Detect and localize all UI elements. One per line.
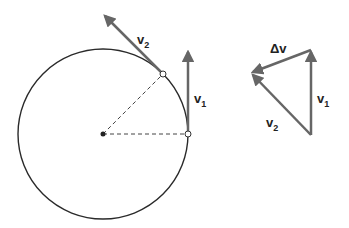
position-point-2	[160, 71, 166, 77]
diagram-canvas	[0, 0, 349, 228]
center-point	[101, 132, 106, 137]
label-v2-triangle: v2	[266, 116, 278, 133]
radius-dashed-2	[103, 74, 163, 134]
label-delta-v: Δv	[270, 42, 287, 55]
triangle-v2-arrow	[253, 75, 311, 135]
v2-arrow	[105, 16, 163, 74]
position-point-1	[185, 131, 191, 137]
label-v1-circle: v1	[194, 92, 206, 109]
label-v2-circle: v2	[137, 33, 149, 50]
label-v1-triangle: v1	[317, 92, 329, 109]
